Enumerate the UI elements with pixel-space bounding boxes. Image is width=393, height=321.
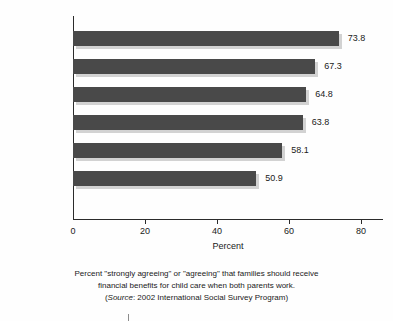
bar: [73, 115, 303, 130]
bar-value-label: 67.3: [324, 60, 342, 73]
bar: [73, 87, 306, 102]
source-text: : 2002 International Social Survey Progr…: [133, 293, 288, 302]
x-tick-label: 0: [70, 225, 75, 237]
page-crop-mark: [128, 314, 129, 321]
bar: [73, 171, 256, 186]
caption-line-2: financial benefits for child care when b…: [0, 280, 393, 292]
caption-line-1: Percent "strongly agreeing" or "agreeing…: [0, 268, 393, 280]
caption-source-line: (Source: 2002 International Social Surve…: [0, 292, 393, 304]
x-axis-title: Percent: [73, 241, 383, 251]
x-tick-mark: [361, 220, 362, 224]
bar: [73, 31, 339, 46]
bar-value-label: 73.8: [348, 32, 366, 45]
x-tick-mark: [145, 220, 146, 224]
source-label: Source: [108, 293, 133, 302]
bar: [73, 59, 315, 74]
x-tick-label: 20: [140, 225, 150, 237]
x-tick-label: 60: [284, 225, 294, 237]
x-axis-line: [73, 219, 383, 220]
figure-caption: Percent "strongly agreeing" or "agreeing…: [0, 268, 393, 304]
bar-value-label: 50.9: [265, 172, 283, 185]
bar: [73, 143, 282, 158]
bar-value-label: 64.8: [315, 88, 333, 101]
x-tick-mark: [289, 220, 290, 224]
bar-value-label: 58.1: [291, 144, 309, 157]
bar-value-label: 63.8: [312, 116, 330, 129]
x-tick-label: 40: [212, 225, 222, 237]
x-tick-label: 80: [356, 225, 366, 237]
plot-area: FRANCE73.8GERMANY67.3GREAT BRITAIN64.8SW…: [73, 16, 383, 220]
x-tick-mark: [217, 220, 218, 224]
bar-chart-figure: FRANCE73.8GERMANY67.3GREAT BRITAIN64.8SW…: [0, 0, 393, 321]
